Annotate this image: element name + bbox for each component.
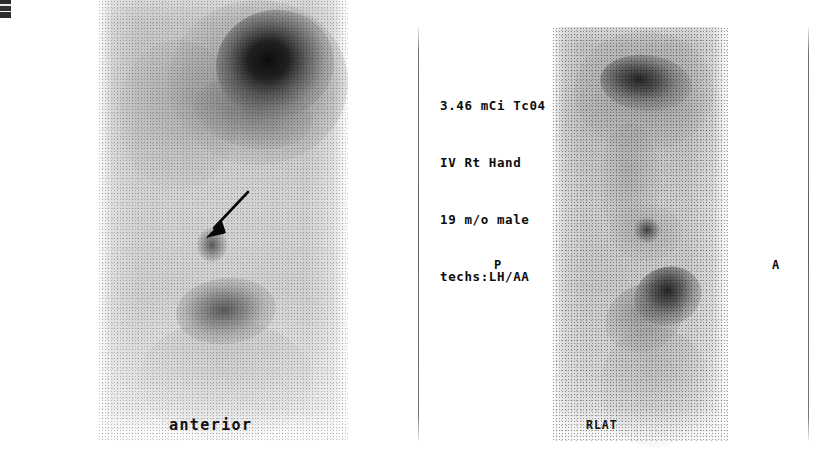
view-label-rlat: RLAT (586, 418, 618, 432)
orientation-marker-anterior: A (772, 258, 780, 272)
scan-image-rlat (552, 27, 728, 441)
panel-rlat-view: 3.46 mCi Tc04 IV Rt Hand 19 m/o male tec… (418, 0, 808, 453)
view-label-anterior: anterior (169, 416, 252, 434)
gamma-camera-noise-rlat (552, 27, 728, 441)
study-header-line-dose: 3.46 mCi Tc04 (440, 96, 546, 115)
film-corner-marker-icon (0, 0, 11, 18)
orientation-marker-posterior: P (494, 258, 502, 272)
annotation-arrow-icon-anterior (196, 188, 252, 244)
study-header-line-techs: techs:LH/AA (440, 267, 546, 286)
study-header-text: 3.46 mCi Tc04 IV Rt Hand 19 m/o male tec… (440, 58, 546, 324)
panel-anterior-view: anterior (0, 0, 418, 453)
scintigraphy-screenshot: anterior 3.46 mCi Tc04 IV Rt Hand 19 m/o… (0, 0, 839, 453)
study-header-line-route: IV Rt Hand (440, 153, 546, 172)
panel-divider-right (808, 27, 809, 441)
study-header-line-patient: 19 m/o male (440, 210, 546, 229)
